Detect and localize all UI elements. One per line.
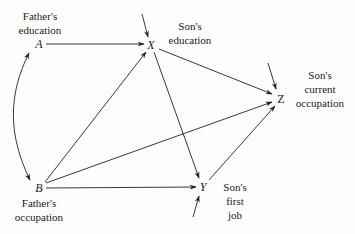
path-diagram: A B X Y Z Father's education Father's oc…	[0, 0, 355, 234]
node-b: B	[35, 182, 42, 194]
edge-a-b-correlation	[13, 53, 30, 180]
label-z-line2: current	[287, 82, 353, 96]
edge-x-to-z	[159, 49, 272, 94]
node-y: Y	[200, 181, 207, 193]
label-y-line1: Son's	[210, 180, 260, 194]
label-b-line1: Father's	[6, 196, 72, 210]
label-x-line1: Son's	[162, 19, 218, 33]
label-a-line1: Father's	[10, 9, 70, 23]
label-y-line2: first	[210, 194, 260, 208]
label-fathers-education: Father's education	[10, 9, 70, 37]
edge-b-to-x	[45, 52, 146, 182]
edge-y-to-z	[209, 106, 275, 180]
label-z-line3: occupation	[287, 96, 353, 110]
label-fathers-occupation: Father's occupation	[6, 196, 72, 224]
node-a: A	[35, 38, 42, 50]
label-y-line3: job	[210, 208, 260, 222]
residual-z	[268, 63, 276, 89]
label-sons-first-job: Son's first job	[210, 180, 260, 222]
label-b-line2: occupation	[6, 210, 72, 224]
label-z-line1: Son's	[287, 68, 353, 82]
edge-x-to-y	[154, 52, 199, 178]
edge-b-to-z	[46, 102, 272, 183]
label-x-line2: education	[162, 33, 218, 47]
residual-y	[193, 196, 199, 217]
residual-x	[142, 14, 148, 37]
node-x: X	[147, 39, 154, 51]
node-z: Z	[277, 93, 284, 105]
label-sons-education: Son's education	[162, 19, 218, 47]
label-a-line2: education	[10, 23, 70, 37]
label-sons-current-occupation: Son's current occupation	[287, 68, 353, 110]
edge-b-to-y	[46, 187, 196, 188]
